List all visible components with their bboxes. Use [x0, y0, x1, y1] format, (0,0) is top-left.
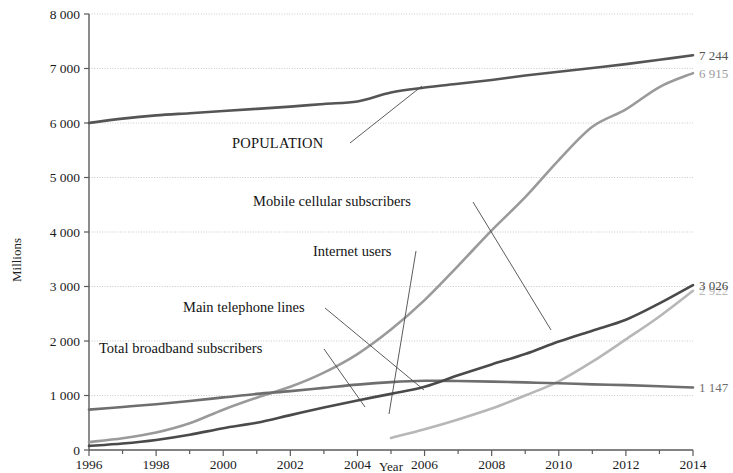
y-axis-title: Millions: [9, 238, 24, 282]
annotation-leader: [325, 308, 424, 390]
line-chart: 01 0002 0003 0004 0005 0006 0007 0008 00…: [0, 0, 733, 473]
x-tick-label: 2014: [680, 457, 707, 472]
x-tick-label: 2000: [210, 457, 237, 472]
series-line: [89, 285, 693, 446]
end-value-label: 3 026: [699, 278, 729, 293]
x-tick-label: 1998: [143, 457, 170, 472]
y-tick-label: 0: [73, 443, 80, 458]
y-tick-label: 4 000: [50, 225, 81, 240]
x-tick-label: 2008: [478, 457, 505, 472]
y-tick-labels: 01 0002 0003 0004 0005 0006 0007 0008 00…: [50, 7, 81, 458]
end-value-label: 6 915: [699, 66, 728, 81]
annotation-leader: [473, 202, 551, 330]
series-annotations: POPULATIONMobile cellular subscribersInt…: [99, 135, 411, 356]
x-tick-label: 1996: [76, 457, 103, 472]
x-axis-title: Year: [379, 459, 404, 473]
annotation-leader: [324, 349, 365, 407]
series-annotation: Main telephone lines: [183, 299, 305, 315]
x-tick-label: 2010: [545, 457, 572, 472]
series-annotation: Total broadband subscribers: [99, 340, 263, 356]
x-tick-label: 2006: [411, 457, 438, 472]
end-value-labels: 2 9226 9151 1477 2443 026: [699, 48, 729, 395]
x-tick-label: 2004: [344, 457, 371, 472]
series-annotation: POPULATION: [232, 135, 324, 151]
end-value-label: 1 147: [699, 380, 729, 395]
series-annotation: Internet users: [313, 243, 392, 259]
y-tick-label: 2 000: [50, 334, 81, 349]
y-tick-label: 7 000: [50, 61, 81, 76]
end-value-label: 7 244: [699, 48, 729, 63]
x-tick-marks: [89, 450, 693, 456]
series-annotation: Mobile cellular subscribers: [253, 193, 411, 209]
y-tick-label: 3 000: [50, 279, 81, 294]
y-tick-label: 8 000: [50, 7, 81, 22]
y-tick-label: 5 000: [50, 170, 81, 185]
x-tick-label: 2012: [612, 457, 639, 472]
x-tick-label: 2002: [277, 457, 304, 472]
y-tick-label: 6 000: [50, 116, 81, 131]
y-tick-marks: [84, 14, 89, 450]
series-line: [89, 55, 693, 123]
y-tick-label: 1 000: [50, 388, 81, 403]
series-line: [391, 291, 693, 438]
chart-container: 01 0002 0003 0004 0005 0006 0007 0008 00…: [0, 0, 733, 473]
